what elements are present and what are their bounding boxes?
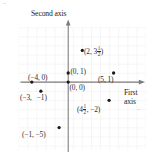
point-label-neg1-neg5: (−1, −5) [22,131,46,139]
point-label-4half-close: , −2) [87,105,101,114]
point-label-neg3-close: −1) [37,93,47,102]
point-label-4half-open: (4 [77,105,83,114]
point-0-1 [67,71,70,74]
fraction-one-half-b: 12 [83,104,86,115]
point-label-neg3-neg1: (−3,−1) [20,94,47,102]
scan-artifact-top-left: •• [3,1,6,6]
fraction-denominator: 2 [97,51,100,57]
point-label-0-0: (0, 0) [70,84,85,92]
point-label-2-3half: (2, 312) [84,46,103,57]
point-label-5-1: (5, 1) [98,76,113,84]
fraction-numerator: 1 [83,104,86,109]
point-label-2-3half-open: (2, 3 [84,47,97,56]
point-label-4half-neg2: (412, −2) [77,104,100,115]
second-axis-label: Second axis [31,9,69,18]
first-axis-label: First axis [124,88,151,106]
point-label-neg4-0: (−4, 0) [28,74,47,82]
point-neg1-neg5 [57,126,60,129]
point-label-2-3half-close: ) [101,47,103,56]
fraction-denominator: 2 [83,109,86,115]
point-4half-neg2 [107,99,110,102]
fraction-numerator: 1 [97,46,100,51]
fraction-one-half-a: 12 [97,46,100,57]
scan-artifact-bottom-right: •• [137,107,140,112]
point-label-neg3-open: (−3, [20,93,32,102]
point-label-0-1: (0, 1) [71,68,86,76]
